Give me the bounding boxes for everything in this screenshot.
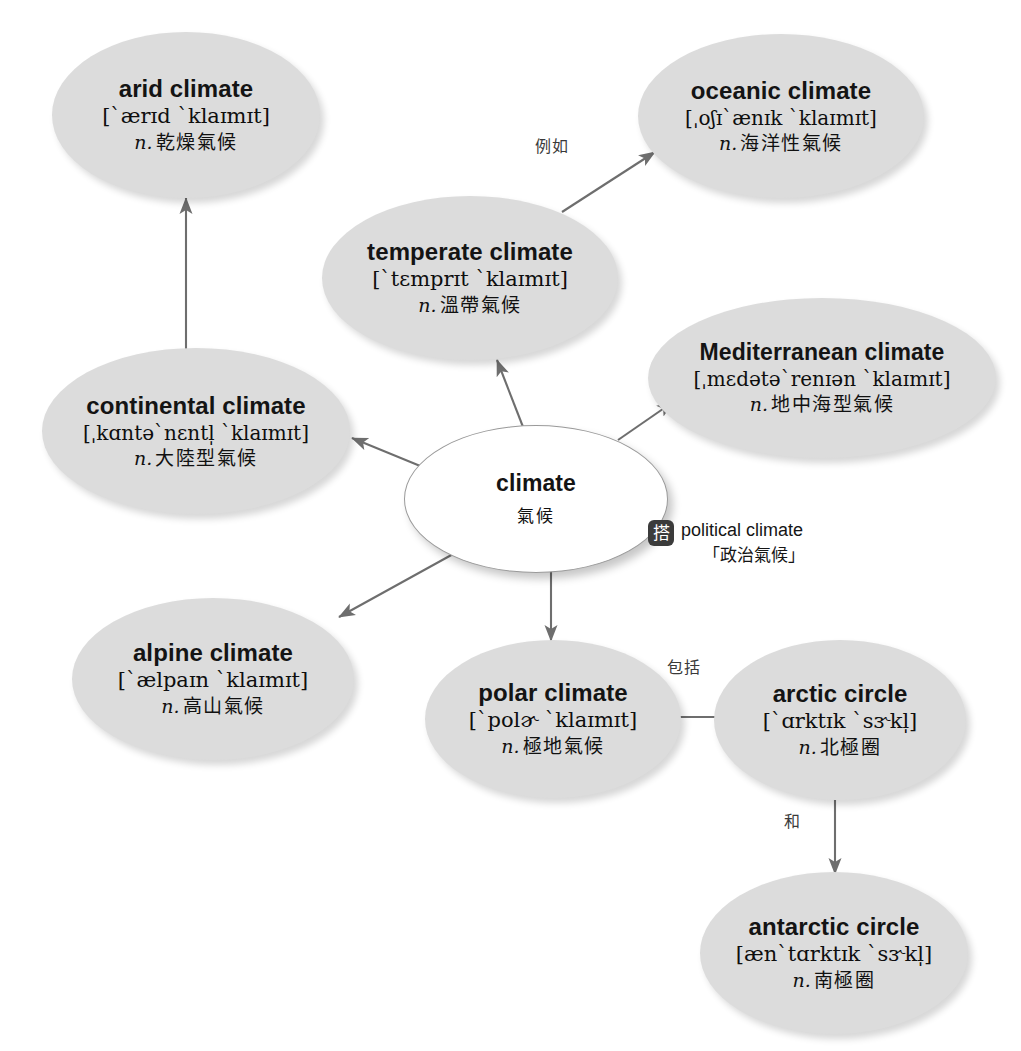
collocation-chinese: 「政治氣候」 [681, 544, 805, 566]
node-ipa: [ˌkɑntə`nɛntl̩ `klaɪmɪt] [83, 422, 309, 444]
edge-climate-alpine [339, 553, 455, 617]
node-mediterranean-climate[interactable]: Mediterranean climate [ˌmɛdətə`renɪən `k… [648, 298, 996, 458]
edge-label-example: 例如 [535, 133, 569, 157]
edge-climate-temperate [497, 360, 525, 432]
edge-label-and: 和 [784, 808, 801, 832]
node-gloss: n.地中海型氣候 [750, 394, 894, 415]
node-pos: n. [501, 735, 522, 757]
node-antarctic-circle[interactable]: antarctic circle [æn`tɑrktɪk `sɝkl̩] n.南… [700, 872, 968, 1034]
node-gloss-cn: 南極圈 [814, 969, 876, 991]
node-climate-center[interactable]: climate 氣候 [404, 425, 668, 573]
node-ipa: [`ærɪd `klaɪmɪt] [102, 105, 270, 128]
node-gloss-cn: 大陸型氣候 [155, 447, 258, 469]
node-gloss-cn: 乾燥氣候 [156, 131, 238, 153]
node-ipa: [ˌmɛdətə`renɪən `klaɪmɪt] [694, 368, 951, 390]
node-gloss: n.溫帶氣候 [418, 295, 521, 316]
node-pos: n. [134, 131, 155, 153]
node-pos: n. [418, 294, 439, 316]
node-gloss: n.極地氣候 [501, 736, 604, 757]
node-oceanic-climate[interactable]: oceanic climate [ˌoʃɪ`ænɪk `klaɪmɪt] n.海… [638, 34, 924, 198]
node-arctic-circle[interactable]: arctic circle [`ɑrktɪk `sɝkl̩] n.北極圈 [714, 640, 966, 800]
node-ipa: [`ɑrktɪk `sɝkl̩] [763, 710, 918, 733]
node-gloss: n.北極圈 [799, 737, 882, 758]
node-pos: n. [750, 393, 771, 415]
node-ipa: [æn`tɑrktɪk `sɝkl̩] [736, 943, 932, 966]
node-term: antarctic circle [748, 914, 919, 940]
collocation-english: political climate [681, 519, 803, 542]
node-term: polar climate [478, 680, 627, 706]
node-ipa: [`polɚ `klaɪmɪt] [469, 709, 637, 732]
mindmap-canvas: arid climate [`ærɪd `klaɪmɪt] n.乾燥氣候 oce… [0, 0, 1021, 1051]
node-continental-climate[interactable]: continental climate [ˌkɑntə`nɛntl̩ `klaɪ… [42, 348, 350, 514]
node-gloss-cn: 高山氣候 [183, 695, 265, 717]
node-term: arid climate [119, 76, 254, 102]
node-term: oceanic climate [691, 78, 871, 104]
node-gloss-cn: 海洋性氣候 [740, 132, 843, 154]
node-gloss-cn: 極地氣候 [523, 735, 605, 757]
node-gloss: n.高山氣候 [161, 696, 264, 717]
node-pos: n. [161, 695, 182, 717]
node-ipa: [ˌoʃɪ`ænɪk `klaɪmɪt] [685, 107, 877, 129]
node-polar-climate[interactable]: polar climate [`polɚ `klaɪmɪt] n.極地氣候 [425, 640, 681, 798]
node-gloss: n.海洋性氣候 [719, 133, 843, 154]
node-pos: n. [134, 447, 155, 469]
node-ipa: [`ælpaɪn `klaɪmɪt] [118, 669, 308, 692]
collocation-note: 搭 political climate 「政治氣候」 [648, 519, 805, 566]
node-pos: n. [799, 736, 820, 758]
node-pos: n. [719, 132, 740, 154]
node-arid-climate[interactable]: arid climate [`ærɪd `klaɪmɪt] n.乾燥氣候 [52, 32, 320, 198]
node-gloss-cn: 北極圈 [820, 736, 882, 758]
collocation-text: political climate 「政治氣候」 [681, 519, 805, 566]
edge-temperate-oceanic [562, 152, 655, 212]
node-ipa: [`tɛmprɪt `klaɪmɪt] [372, 268, 568, 291]
node-term: temperate climate [367, 239, 573, 265]
node-alpine-climate[interactable]: alpine climate [`ælpaɪn `klaɪmɪt] n.高山氣候 [72, 598, 354, 760]
node-term: arctic circle [773, 681, 908, 707]
node-gloss-cn: 地中海型氣候 [771, 393, 894, 415]
center-term: climate [496, 471, 576, 496]
collocation-badge-icon: 搭 [648, 520, 674, 546]
center-gloss-cn: 氣候 [517, 502, 555, 527]
node-gloss: n.乾燥氣候 [134, 132, 237, 153]
node-pos: n. [793, 969, 814, 991]
node-temperate-climate[interactable]: temperate climate [`tɛmprɪt `klaɪmɪt] n.… [322, 196, 618, 360]
edge-label-includes: 包括 [667, 654, 701, 678]
node-gloss-cn: 溫帶氣候 [440, 294, 522, 316]
node-term: continental climate [86, 393, 305, 419]
node-gloss: n.大陸型氣候 [134, 448, 258, 469]
node-term: Mediterranean climate [700, 340, 945, 365]
node-gloss: n.南極圈 [793, 970, 876, 991]
node-term: alpine climate [133, 640, 293, 666]
